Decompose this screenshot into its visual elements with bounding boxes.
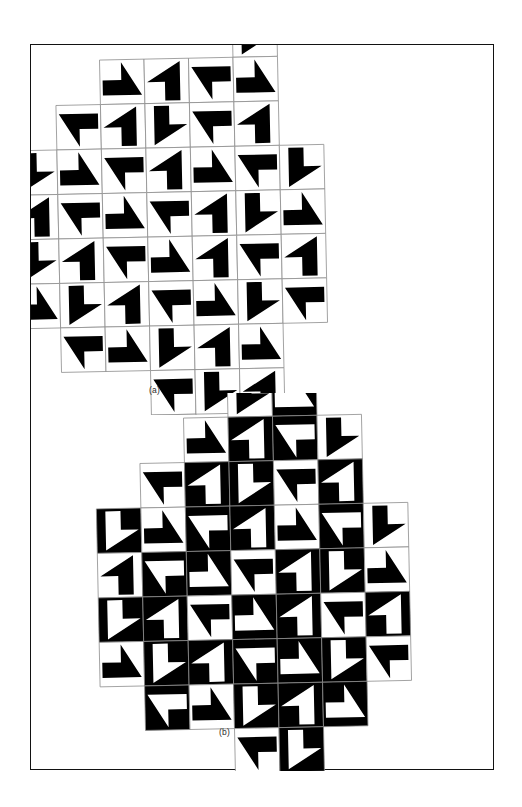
tile — [232, 594, 277, 639]
tile — [31, 150, 58, 195]
tile — [321, 592, 366, 637]
tile — [141, 507, 186, 552]
tile — [272, 415, 317, 460]
tile — [363, 502, 408, 547]
tile — [56, 105, 101, 150]
tile — [146, 147, 191, 192]
tile — [145, 103, 190, 148]
figure-root: (a) (b) — [0, 0, 522, 807]
tile — [235, 145, 280, 190]
tile — [149, 281, 194, 326]
tile — [31, 194, 59, 239]
tile — [102, 193, 147, 238]
tile — [100, 104, 145, 149]
tile — [229, 461, 274, 506]
tile — [318, 459, 363, 504]
tile — [189, 684, 234, 729]
tile — [188, 57, 233, 102]
tile — [236, 190, 281, 235]
tile — [148, 236, 193, 281]
tile — [150, 325, 195, 370]
panel-a-caption: (a) — [149, 385, 160, 395]
tile — [144, 641, 189, 686]
tile — [279, 144, 324, 189]
tile — [31, 239, 60, 284]
tile — [238, 279, 283, 324]
tile — [142, 552, 187, 597]
tile — [366, 636, 411, 681]
tile — [273, 460, 318, 505]
tile — [185, 506, 230, 551]
tile — [183, 417, 228, 462]
tile-background — [232, 45, 277, 57]
tile — [194, 324, 239, 369]
tile — [364, 547, 409, 592]
tile — [104, 282, 149, 327]
tile — [188, 640, 233, 685]
tile-group-a — [31, 45, 330, 415]
tile — [186, 551, 231, 596]
tile — [365, 591, 410, 636]
tile — [191, 191, 236, 236]
tile — [99, 641, 144, 686]
tile — [58, 194, 103, 239]
tile — [278, 682, 323, 727]
tile — [99, 59, 144, 104]
tile — [31, 283, 61, 328]
tile — [60, 283, 105, 328]
tile — [274, 504, 319, 549]
tile — [239, 323, 284, 368]
tile — [230, 505, 275, 550]
tile — [319, 503, 364, 548]
tiling-canvas-a — [31, 45, 495, 415]
tile — [57, 149, 102, 194]
tile — [233, 56, 278, 101]
tile — [237, 234, 282, 279]
tile — [231, 550, 276, 595]
tile — [193, 280, 238, 325]
tile — [144, 58, 189, 103]
tile — [317, 414, 362, 459]
tile-group-b — [94, 393, 414, 771]
tile — [232, 45, 277, 57]
tile — [190, 146, 235, 191]
tile — [140, 463, 185, 508]
tile — [234, 683, 279, 728]
tile — [189, 102, 234, 147]
tile — [275, 549, 320, 594]
tile — [277, 638, 322, 683]
tile — [282, 278, 327, 323]
tile — [234, 101, 279, 146]
tile — [145, 685, 190, 730]
figure-frame: (a) (b) — [30, 44, 494, 770]
tile — [235, 728, 280, 771]
tile — [103, 237, 148, 282]
panel-a — [31, 45, 495, 415]
tile — [272, 393, 317, 416]
panel-b — [31, 393, 495, 771]
tile — [143, 596, 188, 641]
tile — [320, 548, 365, 593]
tile — [105, 326, 150, 371]
tile — [227, 393, 272, 417]
tile — [96, 508, 141, 553]
tile — [101, 148, 146, 193]
tile — [147, 192, 192, 237]
tile — [281, 233, 326, 278]
tile — [97, 552, 142, 597]
tile — [276, 593, 321, 638]
tile — [61, 327, 106, 372]
tile — [228, 416, 273, 461]
tile — [280, 189, 325, 234]
tile — [322, 637, 367, 682]
tile — [192, 235, 237, 280]
panel-b-caption: (b) — [219, 727, 230, 737]
tile — [187, 595, 232, 640]
tile — [184, 462, 229, 507]
tile — [279, 727, 324, 771]
tile — [98, 597, 143, 642]
tile — [233, 639, 278, 684]
tile — [59, 238, 104, 283]
tile — [323, 681, 368, 726]
tiling-canvas-b — [31, 393, 495, 771]
